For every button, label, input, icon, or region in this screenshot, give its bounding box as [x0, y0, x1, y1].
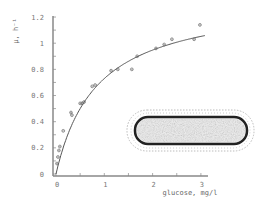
- x-tick-label: 0: [55, 181, 59, 189]
- data-point: [62, 129, 65, 132]
- data-point: [199, 23, 202, 26]
- y-tick-label: 0.2: [31, 144, 44, 152]
- x-axis-label: glucose, mg/l: [163, 189, 218, 197]
- data-point: [58, 145, 61, 148]
- data-point: [136, 55, 139, 58]
- data-point: [57, 156, 60, 159]
- data-point: [171, 38, 174, 41]
- data-point: [130, 68, 133, 71]
- y-axis-label: μ, h⁻¹: [12, 18, 20, 43]
- data-point: [71, 114, 74, 117]
- y-tick-label: 1.2: [31, 14, 44, 22]
- data-point: [155, 47, 158, 50]
- y-tick-label: 0: [40, 171, 44, 179]
- y-tick-label: 0.8: [31, 66, 44, 74]
- data-point: [56, 162, 59, 165]
- data-point: [94, 84, 97, 87]
- x-tick-label: 3: [200, 181, 204, 189]
- y-tick-label: 0.6: [31, 92, 44, 100]
- fit-curve: [56, 36, 205, 174]
- x-tick-label: 2: [151, 181, 155, 189]
- monod-chart: 00.20.40.60.811.20123 μ, h⁻¹ glucose, mg…: [0, 0, 273, 215]
- data-point: [57, 149, 60, 152]
- x-tick-label: 1: [103, 181, 107, 189]
- data-point: [91, 85, 94, 88]
- y-tick-label: 0.4: [31, 118, 44, 126]
- data-point: [110, 69, 113, 72]
- y-tick-label: 1: [40, 40, 44, 48]
- bacterium-inset-image: [127, 110, 254, 151]
